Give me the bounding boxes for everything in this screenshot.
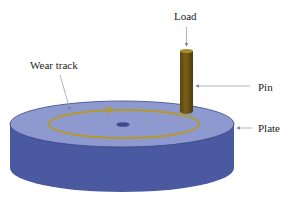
pin-body: [180, 51, 193, 114]
pin-top: [180, 49, 193, 53]
plate: [10, 101, 234, 192]
pin-label: Pin: [258, 81, 273, 93]
plate-label: Plate: [258, 122, 280, 134]
center-hole: [117, 122, 130, 127]
load-label: Load: [174, 10, 197, 22]
pin-on-disc-diagram: Load Pin Plate Wear track: [0, 0, 292, 198]
wear-track-label: Wear track: [30, 59, 78, 71]
pin: [180, 49, 193, 114]
